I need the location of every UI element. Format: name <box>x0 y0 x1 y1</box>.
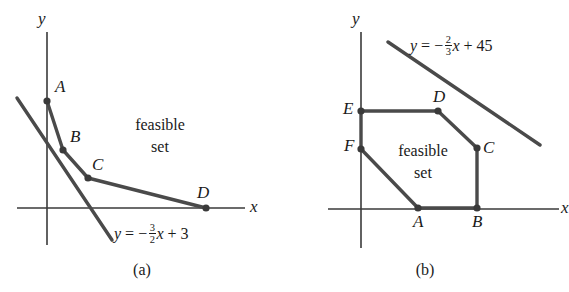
vertex-label-b-B: B <box>472 213 482 230</box>
feasible-set-line2-b: set <box>381 162 465 184</box>
constraint-equation-b: y = − 2 3 x + 45 <box>410 34 493 58</box>
equation-fraction-b: 2 3 <box>445 34 452 58</box>
equation-numerator-a: 3 <box>149 222 156 233</box>
equation-denominator-a: 2 <box>149 233 156 245</box>
vertex-label-a-A: A <box>55 78 65 95</box>
vertex-label-a-C: C <box>92 156 103 173</box>
x-axis-label-b: x <box>561 199 569 216</box>
equation-equals-a: = <box>125 226 134 242</box>
vertex-dot-b-E <box>357 107 364 114</box>
equation-plus-a: + <box>168 226 177 242</box>
vertex-label-b-E: E <box>343 100 353 117</box>
feasible-set-line1-a: feasible <box>118 114 202 136</box>
vertex-label-b-C: C <box>483 139 494 156</box>
vertex-dot-b-A <box>414 204 421 211</box>
y-axis-label-b: y <box>352 10 360 27</box>
equation-constant-b: 45 <box>477 38 493 54</box>
vertex-dot-b-F <box>357 145 364 152</box>
equation-equals-b: = <box>421 38 430 54</box>
equation-lhs-a: y <box>114 226 121 242</box>
equation-variable-a: x <box>156 226 163 242</box>
vertex-label-b-F: F <box>344 137 354 154</box>
vertex-label-b-D: D <box>433 88 445 105</box>
x-axis-label-a: x <box>250 198 258 215</box>
y-axis-label-a: y <box>38 10 46 27</box>
equation-plus-b: + <box>464 38 473 54</box>
equation-denominator-b: 3 <box>445 45 452 57</box>
caption-a: (a) <box>112 262 172 278</box>
equation-variable-b: x <box>452 38 459 54</box>
vertex-dot-a-C <box>84 174 91 181</box>
equation-sign-a: − <box>138 226 147 242</box>
vertex-dot-b-B <box>473 204 480 211</box>
equation-fraction-a: 3 2 <box>149 222 156 246</box>
vertex-label-b-A: A <box>413 213 423 230</box>
vertex-label-a-D: D <box>197 184 209 201</box>
panel-a: y x A B C D feasible set y = − 3 2 x + 3… <box>0 0 283 292</box>
feasible-set-line1-b: feasible <box>381 140 465 162</box>
vertex-dot-b-D <box>434 107 441 114</box>
vertex-dot-a-A <box>43 97 50 104</box>
vertex-label-a-B: B <box>70 128 80 145</box>
vertex-dot-b-C <box>473 144 480 151</box>
panel-b: y x A B C D E F feasible set y = − 2 3 x… <box>283 0 566 292</box>
caption-b: (b) <box>395 262 455 278</box>
equation-sign-b: − <box>434 38 443 54</box>
equation-constant-a: 3 <box>181 226 189 242</box>
constraint-equation-a: y = − 3 2 x + 3 <box>114 222 189 246</box>
feasible-set-annotation-b: feasible set <box>381 140 465 183</box>
equation-lhs-b: y <box>410 38 417 54</box>
vertex-dot-a-D <box>202 204 209 211</box>
equation-numerator-b: 2 <box>445 34 452 45</box>
feasible-set-line2-a: set <box>118 136 202 158</box>
feasible-set-annotation-a: feasible set <box>118 114 202 157</box>
vertex-dot-a-B <box>59 146 66 153</box>
